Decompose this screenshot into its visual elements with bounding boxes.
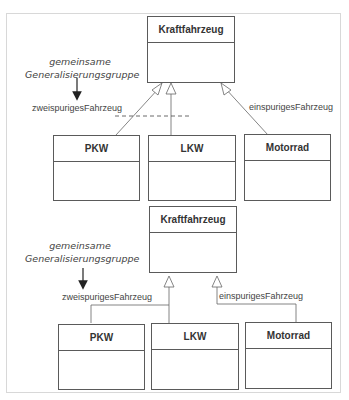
class-name: Motorrad <box>246 323 331 349</box>
class-kraftfahrzeug-top: Kraftfahrzeug <box>147 16 235 83</box>
note-generalization-group-top: gemeinsame Generalisierungsgruppe <box>25 55 135 81</box>
note-line-1: gemeinsame <box>25 55 135 68</box>
note-line-2: Generalisierungsgruppe <box>25 252 135 265</box>
class-name: LKW <box>149 136 235 162</box>
label-zweispuriges-fahrzeug-bottom: zweispurigesFahrzeug <box>62 292 152 302</box>
class-pkw-bottom: PKW <box>58 324 145 390</box>
note-line-1: gemeinsame <box>25 239 135 252</box>
label-zweispuriges-fahrzeug-top: zweispurigesFahrzeug <box>32 103 122 113</box>
class-name: PKW <box>54 136 139 162</box>
class-name: Motorrad <box>245 135 330 161</box>
class-name: PKW <box>59 325 144 351</box>
label-einspuriges-fahrzeug-top: einspurigesFahrzeug <box>249 102 333 112</box>
note-generalization-group-bottom: gemeinsame Generalisierungsgruppe <box>25 239 135 265</box>
class-motorrad-top: Motorrad <box>244 134 331 201</box>
class-lkw-bottom: LKW <box>151 323 239 390</box>
class-lkw-top: LKW <box>148 135 236 201</box>
generalization-arrowheads-top <box>152 83 231 95</box>
class-kraftfahrzeug-bottom: Kraftfahrzeug <box>149 206 237 273</box>
class-name: Kraftfahrzeug <box>148 17 234 43</box>
class-motorrad-bottom: Motorrad <box>245 322 332 389</box>
generalization-arrowheads-bottom <box>164 276 222 287</box>
label-einspuriges-fahrzeug-bottom: einspurigesFahrzeug <box>219 291 303 301</box>
note-line-2: Generalisierungsgruppe <box>25 68 135 81</box>
class-name: LKW <box>152 324 238 350</box>
class-name: Kraftfahrzeug <box>150 207 236 233</box>
class-pkw-top: PKW <box>53 135 140 201</box>
